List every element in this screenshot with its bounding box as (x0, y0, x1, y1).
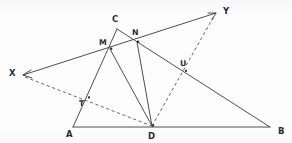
vertex-dot-N (137, 41, 139, 43)
point-label-U: U (180, 59, 187, 68)
point-label-B: B (278, 126, 285, 136)
vertex-dot-M (110, 48, 112, 50)
point-label-X: X (9, 68, 16, 78)
point-label-N: N (132, 28, 139, 37)
point-label-A: A (66, 129, 73, 139)
solid-lines-group (23, 13, 270, 127)
line-MD (110, 49, 152, 126)
vertex-dot-D (152, 124, 154, 126)
line-ND (137, 42, 152, 126)
point-label-C: C (112, 14, 118, 24)
point-label-M: M (99, 38, 107, 47)
point-label-T: T (79, 99, 85, 108)
line-AC (73, 29, 117, 127)
point-label-D: D (148, 131, 155, 141)
point-label-Y: Y (222, 6, 230, 16)
vertex-dot-U (185, 70, 187, 72)
line-XD (25, 77, 152, 126)
geometry-figure: X Y A B C D M N T U (0, 0, 292, 143)
geometry-canvas: X Y A B C D M N T U (0, 0, 292, 143)
line-CB (117, 29, 270, 127)
vertex-dots-group (88, 41, 187, 127)
point-labels-group: X Y A B C D M N T U (9, 6, 285, 141)
vertex-dot-T (88, 96, 90, 98)
